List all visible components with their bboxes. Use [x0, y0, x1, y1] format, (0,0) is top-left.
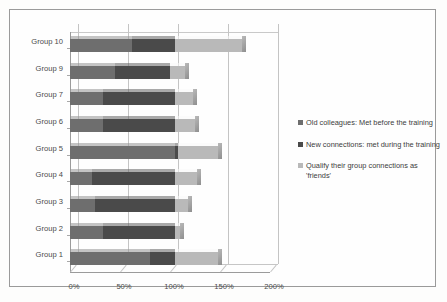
bar-segment-series-2[interactable] [103, 119, 175, 132]
bar-row: Group 4 [70, 168, 270, 183]
bar-segment-top-face [70, 116, 103, 119]
chart-frame: Group 10Group 9Group 7Group 6Group 5Grou… [9, 9, 436, 287]
y-axis-label: Group 6 [36, 115, 63, 128]
bar-segment-series-1[interactable] [70, 39, 132, 52]
bar-row: Group 6 [70, 115, 270, 130]
bar-segment-series-2[interactable] [150, 252, 175, 265]
bar-segment-series-1[interactable] [70, 66, 115, 79]
bar-segment-top-face [175, 89, 193, 92]
bar-segment-series-3[interactable] [175, 39, 242, 52]
legend-item[interactable]: Qualify their group connections as 'frie… [298, 161, 444, 180]
bar-segment-series-1[interactable] [70, 199, 95, 212]
bar-end-cap [197, 169, 201, 185]
stacked-bar[interactable] [70, 66, 185, 79]
bar-segment-series-1[interactable] [70, 119, 103, 132]
bar-segment-series-3[interactable] [175, 172, 197, 185]
bar-segment-top-face [70, 143, 175, 146]
y-axis-tick [67, 48, 70, 49]
legend-key-swatch-icon [298, 120, 303, 125]
bar-end-cap [218, 249, 222, 265]
y-axis-label: Group 10 [31, 35, 63, 48]
stacked-bar[interactable] [70, 92, 193, 105]
stacked-bar[interactable] [70, 252, 218, 265]
bar-segment-top-face [175, 36, 242, 39]
bar-segment-series-2[interactable] [95, 199, 175, 212]
bar-segment-top-face [175, 249, 218, 252]
x-axis-labels: 0%50%100%150%200% [70, 282, 290, 294]
bar-segment-series-2[interactable] [103, 92, 175, 105]
stacked-bar[interactable] [70, 39, 242, 52]
bar-segment-series-1[interactable] [70, 226, 103, 239]
bar-end-cap [193, 89, 197, 105]
y-axis-label: Group 5 [36, 142, 63, 155]
bar-segment-series-2[interactable] [132, 39, 175, 52]
bar-segment-top-face [178, 143, 218, 146]
legend-label: Qualify their group connections as 'frie… [306, 161, 444, 180]
bar-segment-top-face [150, 249, 175, 252]
bar-end-cap [218, 143, 222, 159]
y-axis-tick [67, 101, 70, 102]
bar-row: Group 1 [70, 248, 270, 263]
legend-item[interactable]: New connections: met during the training [298, 140, 444, 150]
legend-key-swatch-icon [298, 163, 303, 168]
bar-segment-top-face [115, 63, 170, 66]
bar-segment-series-3[interactable] [178, 146, 218, 159]
plot-back-wall [70, 24, 278, 33]
x-axis-label: 150% [214, 282, 233, 291]
bar-segment-top-face [70, 169, 92, 172]
y-axis-tick [67, 261, 70, 262]
y-axis-tick [67, 155, 70, 156]
legend-label: Old colleagues: Met before the training [306, 118, 433, 128]
stacked-bar[interactable] [70, 119, 195, 132]
y-axis-tick [67, 235, 70, 236]
bar-end-cap [188, 196, 192, 212]
bar-segment-series-3[interactable] [175, 252, 218, 265]
legend-item[interactable]: Old colleagues: Met before the training [298, 118, 444, 128]
bar-segment-top-face [92, 169, 175, 172]
stacked-bar[interactable] [70, 172, 197, 185]
bar-segment-series-3[interactable] [170, 66, 185, 79]
y-axis-tick [67, 75, 70, 76]
bar-row: Group 3 [70, 195, 270, 210]
bar-end-cap [242, 36, 246, 52]
bar-segment-top-face [170, 63, 185, 66]
bar-segment-series-2[interactable] [103, 226, 175, 239]
bar-segment-series-3[interactable] [175, 92, 193, 105]
bar-end-cap [195, 116, 199, 132]
x-axis-label: 100% [164, 282, 183, 291]
bar-segment-series-1[interactable] [70, 92, 103, 105]
bar-segment-series-2[interactable] [92, 172, 175, 185]
bar-segment-series-1[interactable] [70, 172, 92, 185]
y-axis-label: Group 3 [36, 195, 63, 208]
legend-key-swatch-icon [298, 142, 303, 147]
bar-segment-series-3[interactable] [175, 119, 195, 132]
y-axis-tick [67, 128, 70, 129]
bar-segment-top-face [70, 196, 95, 199]
bar-segment-top-face [103, 116, 175, 119]
bar-segment-series-1[interactable] [70, 146, 175, 159]
bar-segment-top-face [70, 63, 115, 66]
x-axis-label: 50% [116, 282, 131, 291]
bar-row: Group 9 [70, 62, 270, 77]
bar-segment-top-face [70, 223, 103, 226]
stacked-bar[interactable] [70, 226, 180, 239]
stacked-bar[interactable] [70, 146, 218, 159]
bar-row: Group 7 [70, 88, 270, 103]
stacked-bar[interactable] [70, 199, 188, 212]
y-axis-label: Group 1 [36, 248, 63, 261]
chart-legend: Old colleagues: Met before the trainingN… [298, 118, 444, 192]
x-axis-label: 200% [264, 282, 283, 291]
bar-end-cap [185, 63, 189, 79]
bar-segment-top-face [175, 116, 195, 119]
bar-segment-top-face [70, 36, 132, 39]
y-axis-label: Group 2 [36, 222, 63, 235]
bar-segment-series-1[interactable] [70, 252, 150, 265]
bar-segment-top-face [175, 196, 188, 199]
bar-row: Group 10 [70, 35, 270, 50]
legend-label: New connections: met during the training [306, 140, 440, 150]
bar-segment-series-2[interactable] [115, 66, 170, 79]
bar-segment-top-face [103, 89, 175, 92]
bar-segment-top-face [70, 89, 103, 92]
gridline-base-200 [270, 265, 277, 273]
bar-segment-series-3[interactable] [175, 199, 188, 212]
